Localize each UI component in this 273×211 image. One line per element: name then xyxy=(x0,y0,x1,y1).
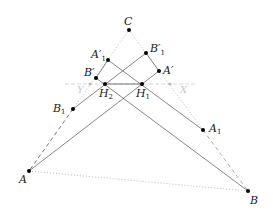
side-ab xyxy=(29,171,248,191)
side-ca1 xyxy=(129,30,203,130)
segment-b1prime-aprime xyxy=(146,53,159,71)
label-bprime: B′ xyxy=(83,66,95,79)
point-bprime xyxy=(94,76,98,80)
line-bprime-b xyxy=(96,78,248,191)
point-b xyxy=(246,189,250,193)
label-b: B xyxy=(249,194,258,207)
label-a1prime: A′1 xyxy=(90,48,106,63)
label-b1prime: B′1 xyxy=(149,42,165,57)
gray-point-right xyxy=(169,83,172,86)
label-y: Y xyxy=(77,84,85,95)
diagram-canvas: Y X C A′1 B′1 A′ B′ H2 H1 B1 A1 A B xyxy=(0,0,273,211)
line-a1prime-a1 xyxy=(108,60,203,130)
point-a1 xyxy=(201,128,205,132)
point-h2 xyxy=(103,82,107,86)
label-b1: B1 xyxy=(52,102,66,116)
point-a xyxy=(27,169,31,173)
point-c xyxy=(127,28,131,32)
segment-b1-a xyxy=(29,109,73,171)
label-x: X xyxy=(179,84,188,95)
point-a1prime xyxy=(106,58,110,62)
point-b1 xyxy=(71,107,75,111)
segment-a1-b xyxy=(203,130,248,191)
label-a: A xyxy=(18,173,27,186)
label-c: C xyxy=(124,15,133,28)
point-b1prime xyxy=(144,51,148,55)
label-aprime: A′ xyxy=(162,64,174,77)
label-a1: A1 xyxy=(208,122,221,136)
line-a-aprime xyxy=(29,71,159,171)
geometry-diagram: Y X C A′1 B′1 A′ B′ H2 H1 B1 A1 A B xyxy=(0,0,273,211)
point-aprime xyxy=(157,69,161,73)
point-h1 xyxy=(140,82,144,86)
